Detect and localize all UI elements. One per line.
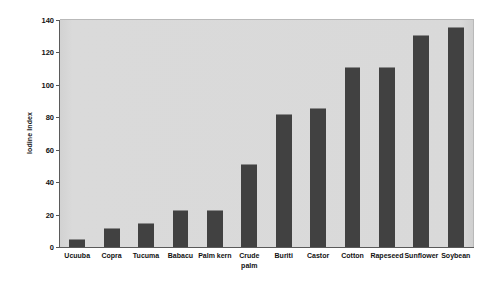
plot-background xyxy=(60,20,473,247)
y-axis-tick-label: 80 xyxy=(32,113,54,122)
y-axis-tick-label: 120 xyxy=(32,48,54,57)
y-axis-line xyxy=(59,20,60,248)
bar xyxy=(173,210,189,247)
bar xyxy=(241,164,257,247)
y-axis-tick-labels: 020406080100120140 xyxy=(32,0,54,285)
x-axis-line xyxy=(59,247,474,248)
y-axis-tick-label: 20 xyxy=(32,210,54,219)
y-axis-tick-label: 100 xyxy=(32,80,54,89)
plot-area xyxy=(60,20,473,247)
bar xyxy=(310,108,326,247)
bar xyxy=(69,239,85,247)
bar xyxy=(104,228,120,247)
y-axis-tick-label: 60 xyxy=(32,145,54,154)
x-axis-tick-labels: UcuubaCopraTucumaBabacuPalm kernCrude pa… xyxy=(60,251,473,285)
y-axis-tick-label: 140 xyxy=(32,16,54,25)
bar xyxy=(138,223,154,247)
x-axis-tick-label: Soybean xyxy=(436,251,476,261)
plot-top-border xyxy=(60,19,474,20)
plot-right-border xyxy=(473,20,474,248)
bar xyxy=(448,27,464,248)
bar-chart-figure: Iodine Index 020406080100120140 UcuubaCo… xyxy=(0,0,500,285)
y-axis-tick-label: 0 xyxy=(32,243,54,252)
bar xyxy=(379,67,395,247)
bar xyxy=(207,210,223,247)
y-axis-tick-label: 40 xyxy=(32,178,54,187)
bar xyxy=(345,67,361,247)
bar xyxy=(413,35,429,247)
bar xyxy=(276,114,292,247)
